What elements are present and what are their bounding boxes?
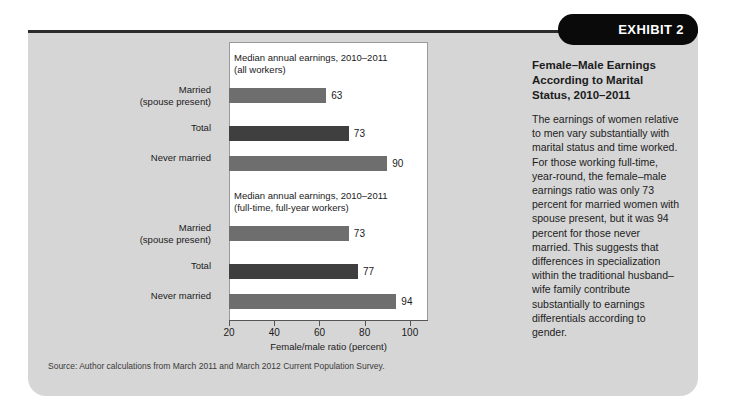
x-tick-label-100: 100 (395, 327, 425, 338)
x-tick-label-40: 40 (259, 327, 289, 338)
x-tick-label-80: 80 (350, 327, 380, 338)
bar-fulltime-workers-never-married (229, 294, 396, 309)
bar-all-workers-never-married (229, 156, 387, 171)
bar-fulltime-workers-total (229, 264, 358, 279)
category-label-never-married-top: Never married (71, 152, 211, 164)
category-label-never-married-bottom: Never married (71, 290, 211, 302)
source-note: Source: Author calculations from March 2… (48, 361, 385, 371)
x-tick-label-20: 20 (214, 327, 244, 338)
bar-value-all-workers-never-married: 90 (392, 156, 403, 171)
exhibit-badge-label: EXHIBIT 2 (618, 22, 684, 37)
category-label-married-top: Married (spouse present) (71, 84, 211, 107)
category-label-total-top: Total (71, 122, 211, 134)
bar-value-fulltime-workers-married: 73 (354, 226, 365, 241)
bar-value-all-workers-total: 73 (354, 126, 365, 141)
chart-panel-title-fulltime-workers: Median annual earnings, 2010–2011 (full-… (234, 190, 388, 214)
bar-value-fulltime-workers-never-married: 94 (401, 294, 412, 309)
exhibit-badge: EXHIBIT 2 (558, 14, 698, 45)
bar-value-fulltime-workers-total: 77 (363, 264, 374, 279)
x-tick-label-60: 60 (304, 327, 334, 338)
exhibit-body-text: The earnings of women relative to men va… (532, 112, 680, 339)
category-label-total-bottom: Total (71, 260, 211, 272)
exhibit-text-column: Female–Male Earnings According to Marita… (532, 58, 680, 339)
chart-plot-area (229, 42, 428, 321)
x-axis-line (229, 320, 428, 321)
chart-panel-title-all-workers: Median annual earnings, 2010–2011 (all w… (234, 52, 388, 76)
x-tick-80 (365, 321, 366, 326)
bar-all-workers-total (229, 126, 349, 141)
x-axis-title: Female/male ratio (percent) (229, 341, 428, 352)
x-tick-60 (319, 321, 320, 326)
bar-fulltime-workers-married (229, 226, 349, 241)
exhibit-heading: Female–Male Earnings According to Marita… (532, 58, 680, 103)
exhibit-figure: EXHIBIT 2 Median annual earnings, 2010–2… (0, 0, 734, 411)
x-tick-40 (274, 321, 275, 326)
x-tick-20 (229, 321, 230, 326)
bar-all-workers-married (229, 88, 326, 103)
category-label-married-bottom: Married (spouse present) (71, 222, 211, 245)
bar-value-all-workers-married: 63 (331, 88, 342, 103)
x-tick-100 (410, 321, 411, 326)
